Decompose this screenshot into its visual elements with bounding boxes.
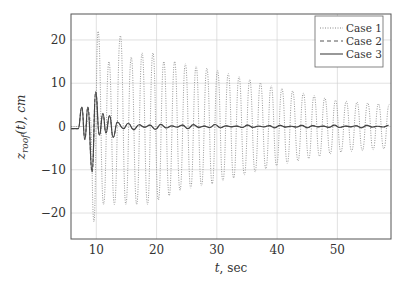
y-axis-label: zroof(t), cm — [14, 95, 30, 161]
x-tick-label: 40 — [269, 243, 284, 257]
svg-text:Case 1: Case 1 — [346, 22, 382, 34]
x-tick-label: 30 — [209, 243, 224, 257]
x-tick-label: 20 — [149, 243, 164, 257]
series-case-3 — [71, 92, 389, 172]
y-tick-label: 10 — [51, 76, 66, 90]
y-tick-label: 20 — [51, 33, 66, 47]
x-axis-label: t, sec — [215, 261, 248, 275]
x-tick-label: 10 — [89, 243, 104, 257]
x-tick-label: 50 — [330, 243, 345, 257]
svg-text:Case 3: Case 3 — [346, 48, 382, 60]
series-case-2 — [71, 92, 389, 172]
y-tick-label: −10 — [41, 163, 66, 177]
y-tick-label: −20 — [41, 206, 66, 220]
line-chart: 1020304050−20−1001020 t, sec zroof(t), c… — [0, 0, 407, 287]
svg-text:Case 2: Case 2 — [346, 35, 382, 47]
legend: Case 1 Case 2 Case 3 — [315, 16, 383, 67]
y-tick-label: 0 — [58, 120, 66, 134]
